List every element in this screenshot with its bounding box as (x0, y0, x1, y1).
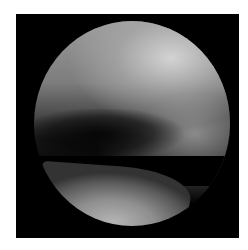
scope-field (34, 21, 230, 226)
image-frame (16, 14, 239, 238)
